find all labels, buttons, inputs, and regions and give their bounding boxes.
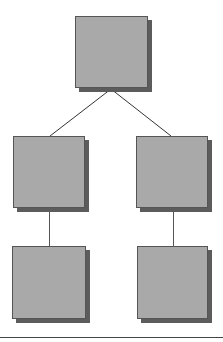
tree-diagram bbox=[0, 0, 223, 342]
edge-root-to-child-right bbox=[111, 89, 171, 136]
node-root-label bbox=[76, 17, 147, 87]
edge-root-to-child-left bbox=[50, 89, 111, 136]
node-root bbox=[75, 16, 148, 88]
node-grandchild-right-label bbox=[138, 247, 207, 318]
node-child-left-label bbox=[14, 137, 84, 207]
node-grandchild-left-label bbox=[13, 247, 85, 318]
node-grandchild-left bbox=[12, 246, 86, 319]
node-child-right-label bbox=[137, 137, 207, 207]
node-grandchild-right bbox=[137, 246, 208, 319]
node-child-right bbox=[136, 136, 208, 208]
node-child-left bbox=[13, 136, 85, 208]
bottom-divider bbox=[0, 337, 223, 338]
